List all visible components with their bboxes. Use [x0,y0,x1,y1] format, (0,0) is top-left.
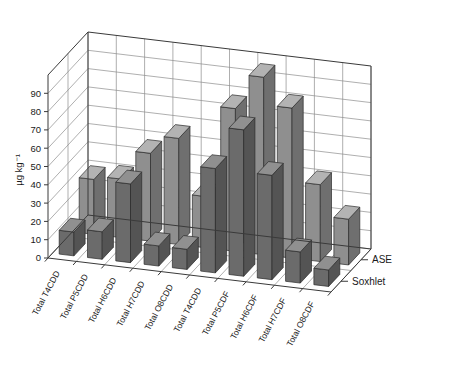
x-tick-mark [73,261,76,265]
x-tick-mark [243,282,246,286]
series-label-ase: ASE [372,254,392,265]
bar-front-face [116,182,131,262]
y-tick-label: 40 [30,179,41,190]
x-tick-mark [271,285,274,289]
x-tick-mark [101,265,104,269]
x-tick-mark [328,292,331,296]
y-tick-label: 30 [30,198,41,209]
x-axis-category-label: Total T4CDD [172,286,204,334]
bar-ase-9 [334,205,360,265]
series-label-soxhlet: Soxhlet [352,276,386,287]
y-tick-label: 50 [30,161,41,172]
y-tick-label: 20 [30,216,41,227]
x-axis-category-label: Total P5CDD [58,272,90,321]
bar-side-face [215,157,226,273]
x-axis-category-label: Total H6CDF [228,293,260,341]
x-axis-category-label: Total H7CDD [114,279,146,328]
bar-side-face [272,163,283,279]
x-tick-mark [300,289,303,293]
bar-front-face [144,244,159,266]
x-axis-category-label: Total O8CDD [143,283,176,332]
bar-front-face [286,250,301,283]
y-tick-label: 90 [30,88,41,99]
x-tick-mark [45,258,48,262]
x-tick-mark [186,275,189,279]
bar-soxhlet-7 [257,162,283,280]
y-tick-label: 10 [30,234,41,245]
bar-front-face [257,174,272,280]
y-tick-label: 70 [30,124,41,135]
bar-front-face [164,137,179,245]
bar-soxhlet-2 [116,170,142,262]
bar-side-face [244,118,255,276]
chart-canvas: 0102030405060708090 µg kg⁻¹ Total T4CDDT… [0,0,451,366]
y-axis-title-text: µg kg⁻¹ [13,154,24,186]
x-axis-category-label: Total P5CDF [200,289,232,337]
bar-soxhlet-6 [229,116,255,276]
x-axis-category-label: Total T4CDD [30,269,62,317]
x-axis-category-label: Total H7CDF [256,296,288,344]
y-axis-title: µg kg⁻¹ [13,154,24,186]
y-tick-label: 60 [30,143,41,154]
bar-side-face [320,173,331,262]
bar-front-face [314,268,329,286]
x-tick-mark [158,272,161,276]
bar-side-face [131,172,142,263]
x-axis-category-label: Total O8CDF [284,300,316,349]
bar-front-face [87,230,102,259]
x-tick-mark [215,278,218,282]
y-tick-label: 80 [30,106,41,117]
bar-front-face [229,128,244,276]
bar-front-face [201,167,216,273]
x-axis-category-label: Total H6CDD [86,276,118,325]
x-tick-mark [130,268,133,272]
bar-front-face [172,248,187,270]
bar-chart-3d: 0102030405060708090 µg kg⁻¹ Total T4CDDT… [0,0,451,366]
bar-soxhlet-5 [201,155,227,273]
y-axis-ticks: 0102030405060708090 [30,88,48,264]
bar-side-face [292,96,303,258]
y-tick-label: 0 [36,252,41,263]
bar-side-face [151,141,162,241]
